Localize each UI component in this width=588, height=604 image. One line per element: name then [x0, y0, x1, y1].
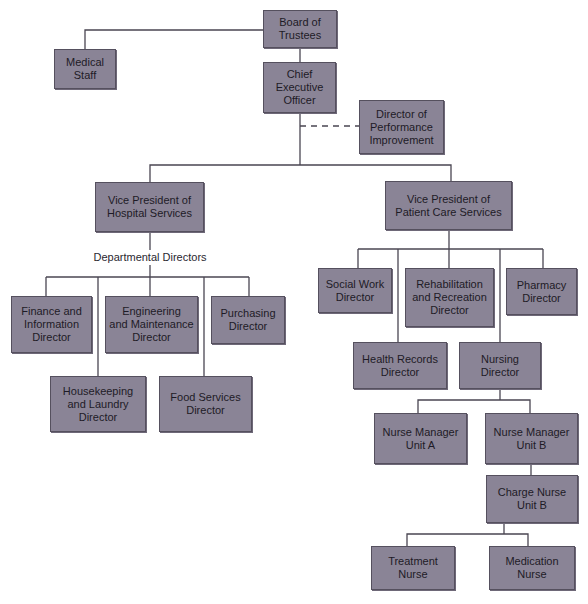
node-vp-hospital: Vice President of Hospital Services — [95, 182, 204, 232]
node-social-work: Social Work Director — [318, 268, 392, 313]
node-nurse-manager-b: Nurse Manager Unit B — [485, 413, 578, 464]
node-rehabilitation: Rehabilitation and Recreation Director — [405, 268, 494, 327]
node-treatment-nurse: Treatment Nurse — [371, 546, 455, 590]
node-food-services: Food Services Director — [159, 376, 252, 432]
node-engineering: Engineering and Maintenance Director — [105, 296, 198, 353]
node-medical-staff: Medical Staff — [54, 49, 116, 89]
group-label-departmental-directors: Departmental Directors — [80, 251, 220, 263]
node-health-records: Health Records Director — [353, 342, 447, 389]
node-pharmacy: Pharmacy Director — [506, 268, 577, 315]
node-ceo: Chief Executive Officer — [263, 62, 336, 113]
node-medication-nurse: Medication Nurse — [489, 546, 575, 590]
node-board: Board of Trustees — [263, 10, 337, 48]
node-performance-director: Director of Performance Improvement — [359, 100, 444, 154]
node-finance: Finance and Information Director — [11, 296, 92, 353]
node-housekeeping: Housekeeping and Laundry Director — [50, 376, 146, 432]
node-nursing-director: Nursing Director — [459, 342, 541, 389]
node-purchasing: Purchasing Director — [211, 296, 285, 344]
node-vp-patient-care: Vice President of Patient Care Services — [385, 181, 512, 230]
node-charge-nurse: Charge Nurse Unit B — [486, 475, 578, 523]
node-nurse-manager-a: Nurse Manager Unit A — [374, 413, 467, 464]
